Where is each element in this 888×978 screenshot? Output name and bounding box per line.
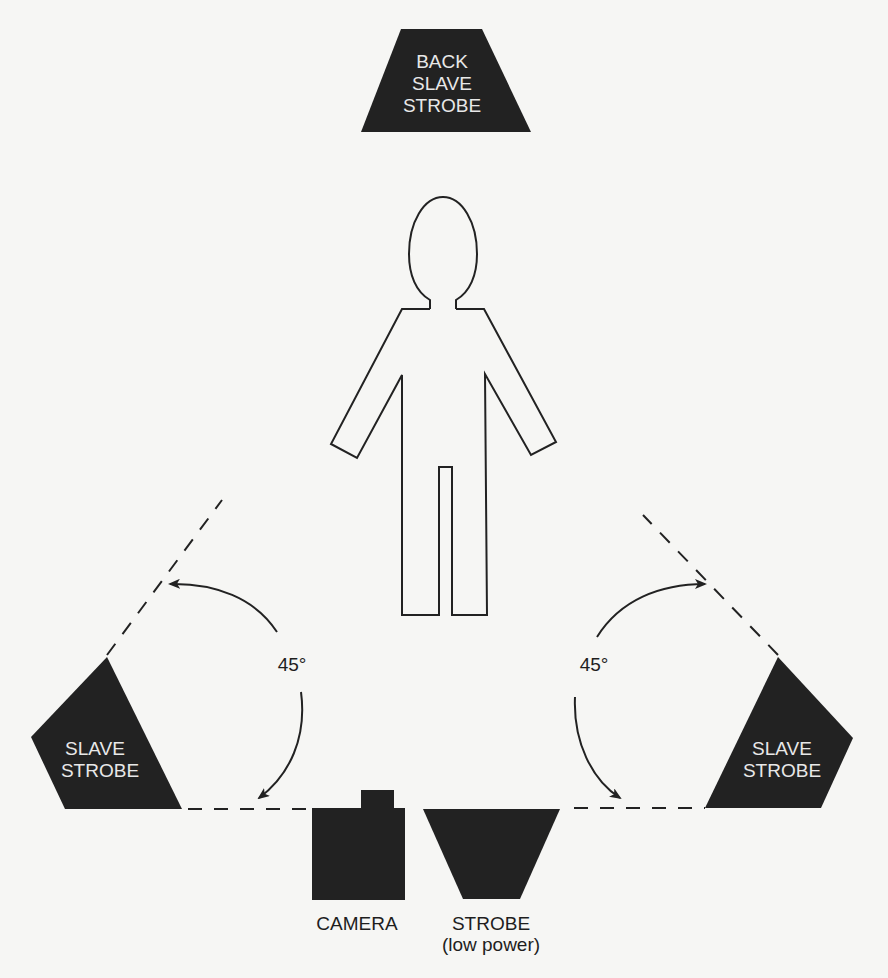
right-diagonal-dashed-line bbox=[643, 515, 778, 655]
left-lower-arc-arrow bbox=[259, 692, 302, 798]
front-strobe: STROBE (low power) bbox=[423, 809, 560, 955]
back-strobe-label-line2: SLAVE bbox=[412, 73, 472, 94]
left-strobe-label-line1: SLAVE bbox=[65, 738, 125, 759]
right-angle-label: 45° bbox=[580, 654, 609, 675]
left-angle-indicator: 45° bbox=[170, 584, 306, 798]
front-strobe-sublabel: (low power) bbox=[442, 934, 540, 955]
camera-label: CAMERA bbox=[316, 913, 398, 934]
back-strobe-label-line3: STROBE bbox=[403, 95, 481, 116]
right-upper-arc-arrow bbox=[597, 584, 705, 637]
camera-body bbox=[312, 808, 405, 900]
subject-figure bbox=[331, 197, 556, 615]
right-strobe-shape bbox=[705, 657, 853, 808]
right-angle-indicator: 45° bbox=[575, 584, 705, 798]
front-strobe-label: STROBE bbox=[452, 913, 530, 934]
camera: CAMERA bbox=[312, 790, 405, 934]
right-lower-arc-arrow bbox=[575, 697, 620, 798]
left-strobe-label-line2: STROBE bbox=[61, 760, 139, 781]
left-slave-strobe: SLAVE STROBE bbox=[31, 657, 182, 809]
lighting-diagram: BACK SLAVE STROBE SLAVE STROBE SLAVE STR… bbox=[0, 0, 888, 978]
figure-body bbox=[331, 309, 556, 615]
right-slave-strobe: SLAVE STROBE bbox=[705, 657, 853, 808]
back-strobe-label-line1: BACK bbox=[416, 51, 468, 72]
back-slave-strobe: BACK SLAVE STROBE bbox=[361, 29, 531, 132]
left-angle-label: 45° bbox=[278, 654, 307, 675]
front-strobe-shape bbox=[423, 809, 560, 899]
right-strobe-label-line2: STROBE bbox=[743, 760, 821, 781]
figure-head bbox=[409, 197, 477, 309]
left-strobe-shape bbox=[31, 657, 182, 809]
left-upper-arc-arrow bbox=[170, 584, 277, 632]
right-strobe-label-line1: SLAVE bbox=[752, 738, 812, 759]
camera-viewfinder bbox=[361, 790, 394, 810]
left-diagonal-dashed-line bbox=[107, 500, 222, 655]
